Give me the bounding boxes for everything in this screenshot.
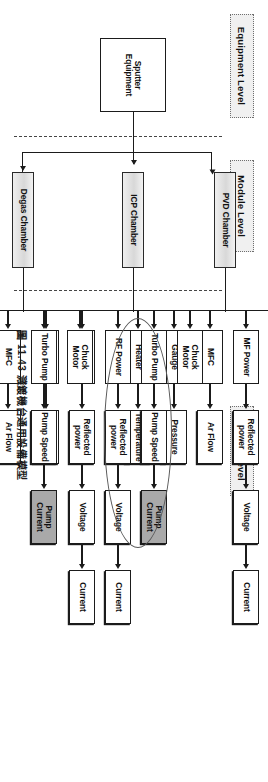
equipment-box-sputter[interactable]: Sputter Equipment (100, 38, 166, 112)
device-box-icp-mf-1[interactable]: Reflected power (69, 410, 95, 464)
link-pvd-mf-1 (245, 464, 246, 484)
device-box-pvd-mf-0[interactable]: MF Power (233, 330, 259, 384)
link-icp-rf-2 (117, 544, 118, 564)
link-arrow-icp-rf-2 (115, 564, 121, 569)
degas-out (23, 268, 24, 312)
link-arrow-pvd-gauge-0 (171, 404, 177, 409)
device-box-pvd-mf-2[interactable]: Voltage (233, 490, 259, 544)
figure-caption: 圖 11.43 濺鍍機台通用設備模型 (15, 330, 30, 481)
divider-module-device (14, 290, 222, 291)
level-banner-equipment: Equipment Level (230, 14, 254, 118)
link-arrow-icp-mf-1 (79, 484, 85, 489)
degas-arrow-degas-mfc (5, 324, 11, 329)
pvd-arrow-pvd-mf (243, 324, 249, 329)
link-pvd-mf-2 (245, 544, 246, 564)
link-degas-turbo-1 (43, 464, 44, 484)
device-box-icp-chuck-0[interactable]: Chuck Motor (177, 330, 203, 384)
icp-connector-icp-turbo (153, 310, 154, 324)
degas-connector-degas-turbo (43, 310, 44, 324)
link-arrow-icp-mf-0 (79, 404, 85, 409)
pvd-arrow-pvd-gauge (171, 324, 177, 329)
degas-connector-degas-chuck (79, 310, 80, 324)
link-arrow-icp-mf-2 (79, 564, 85, 569)
icp-connector-icp-chuck (189, 310, 190, 324)
icp-connector-icp-chiller (45, 310, 46, 324)
link-icp-mf-1 (81, 464, 82, 484)
link-arrow-degas-mfc-0 (5, 404, 11, 409)
device-box-degas-chuck-0[interactable]: Chuck Motor (67, 330, 93, 384)
link-icp-chiller-0 (45, 384, 46, 404)
pvd-connector-pvd-gauge (173, 310, 174, 324)
link-icp-mf-2 (81, 544, 82, 564)
pvd-out (225, 268, 226, 312)
device-box-degas-turbo-1[interactable]: Pump Speed (31, 410, 57, 464)
degas-arrow-degas-turbo (41, 324, 47, 329)
highlight-ellipse-pump-chain (104, 318, 172, 548)
pvd-connector-pvd-mfc (209, 310, 210, 324)
link-arrow-degas-turbo-1 (41, 484, 47, 489)
device-box-icp-mf-3[interactable]: Current (69, 570, 95, 624)
icp-connector-icp-rf (117, 310, 118, 324)
arrow-equipment-to-module (132, 160, 138, 165)
module-box-pvd[interactable]: PVD Chamber (214, 172, 236, 268)
degas-connector-degas-mfc (7, 310, 8, 324)
pvd-connector-pvd-mf (245, 310, 246, 324)
icp-arrow-icp-rf (115, 324, 121, 329)
link-icp-mf-0 (81, 384, 82, 404)
diagram-canvas: Equipment Level Module Level Device Leve… (0, 0, 268, 782)
device-box-icp-rf-3[interactable]: Current (105, 570, 131, 624)
divider-equipment-module (14, 136, 222, 137)
pvd-arrow-pvd-mfc (207, 324, 213, 329)
link-arrow-pvd-mf-1 (243, 484, 249, 489)
device-box-degas-turbo-2[interactable]: Pump Current (31, 490, 57, 544)
degas-spine (0, 310, 84, 311)
trunk-module-spine (22, 152, 212, 153)
link-pvd-gauge-0 (173, 384, 174, 404)
figure-root: Equipment Level Module Level Device Leve… (0, 0, 268, 782)
link-pvd-mfc-0 (209, 384, 210, 404)
device-box-pvd-mf-1[interactable]: Reflected power (233, 410, 259, 464)
device-box-degas-turbo-0[interactable]: Turbo Pump (31, 330, 57, 384)
link-pvd-mf-0 (245, 384, 246, 404)
device-box-pvd-mfc-1[interactable]: Ar Flow (197, 410, 223, 464)
link-arrow-pvd-mfc-0 (207, 404, 213, 409)
icp-arrow-icp-chuck (187, 324, 193, 329)
link-degas-turbo-0 (43, 384, 44, 404)
module-box-degas[interactable]: Degas Chamber (12, 172, 34, 268)
link-arrow-pvd-mf-0 (243, 404, 249, 409)
device-box-icp-mf-2[interactable]: Voltage (69, 490, 95, 544)
icp-out (133, 268, 134, 312)
arrow-into-degas (21, 166, 27, 171)
device-box-pvd-mf-3[interactable]: Current (233, 570, 259, 624)
icp-connector-icp-mf (81, 310, 82, 324)
link-arrow-pvd-mf-2 (243, 564, 249, 569)
trunk-equipment-out (133, 112, 134, 164)
icp-spine (72, 310, 194, 311)
link-degas-mfc-0 (7, 384, 8, 404)
degas-arrow-degas-chuck (77, 324, 83, 329)
link-arrow-degas-turbo-0 (41, 404, 47, 409)
module-box-icp[interactable]: ICP Chamber (122, 172, 144, 268)
